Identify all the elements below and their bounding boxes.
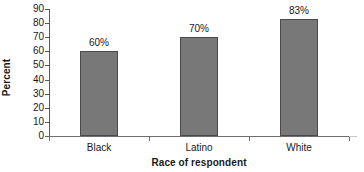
x-axis-tick-mark bbox=[249, 137, 250, 141]
x-axis-tick-label: Latino bbox=[149, 142, 249, 154]
x-axis-tick-mark bbox=[349, 137, 350, 141]
plot-area: 60%70%83% bbox=[49, 9, 349, 136]
bar-latino[interactable] bbox=[180, 37, 218, 136]
bar-group: 83% bbox=[249, 9, 349, 136]
y-axis-tick-label: 30 bbox=[16, 89, 44, 99]
x-axis-tick-label: White bbox=[249, 142, 349, 154]
y-axis-tick-label: 50 bbox=[16, 60, 44, 70]
bar-white[interactable] bbox=[280, 19, 318, 136]
x-axis-tick-mark bbox=[49, 137, 50, 141]
x-axis-line-extension bbox=[349, 136, 357, 137]
y-axis-title: Percent bbox=[0, 42, 14, 112]
x-axis-tick-mark bbox=[149, 137, 150, 141]
bar-black[interactable] bbox=[80, 51, 118, 136]
y-axis-tick-label: 0 bbox=[16, 131, 44, 141]
y-axis-tick-label: 90 bbox=[16, 4, 44, 14]
y-axis-tick-label: 80 bbox=[16, 18, 44, 28]
bar-chart: Percent 9080706050403020100 60%70%83% Bl… bbox=[0, 0, 364, 172]
bar-group: 60% bbox=[49, 9, 149, 136]
bar-value-label: 70% bbox=[189, 23, 209, 34]
x-axis-line bbox=[49, 136, 349, 137]
y-axis-tick-label: 70 bbox=[16, 32, 44, 42]
x-axis-tick-label: Black bbox=[49, 142, 149, 154]
y-axis-tick-label: 40 bbox=[16, 75, 44, 85]
bar-value-label: 83% bbox=[289, 5, 309, 16]
x-axis-title: Race of respondent bbox=[49, 157, 349, 168]
y-axis-title-text: Percent bbox=[2, 58, 13, 95]
bar-group: 70% bbox=[149, 9, 249, 136]
y-axis-tick-labels: 9080706050403020100 bbox=[16, 0, 44, 172]
y-axis-tick-label: 10 bbox=[16, 117, 44, 127]
bar-value-label: 60% bbox=[89, 37, 109, 48]
y-axis-tick-label: 60 bbox=[16, 46, 44, 56]
y-axis-tick-label: 20 bbox=[16, 103, 44, 113]
